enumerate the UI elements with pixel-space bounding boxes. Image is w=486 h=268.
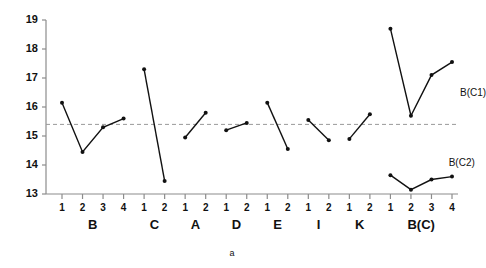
x-tick-label: 2: [155, 202, 175, 213]
y-tick-label: 16: [8, 100, 38, 112]
x-tick-label: 2: [237, 202, 257, 213]
x-group-label: B(C): [391, 217, 451, 232]
x-tick-label: 4: [442, 202, 462, 213]
y-tick-label: 19: [8, 13, 38, 25]
series-line-B(C2): [390, 175, 452, 190]
x-tick-label: 2: [319, 202, 339, 213]
data-point: [163, 179, 167, 183]
series-line-A: [185, 113, 206, 138]
data-point: [81, 150, 85, 154]
figure-caption: a: [0, 248, 464, 258]
data-point: [224, 128, 228, 132]
data-point: [265, 101, 269, 105]
x-tick-label: 1: [216, 202, 236, 213]
data-point: [142, 67, 146, 71]
series-line-K: [349, 114, 370, 139]
data-point: [101, 125, 105, 129]
data-point: [245, 121, 249, 125]
data-point: [429, 178, 433, 182]
data-point: [183, 135, 187, 139]
x-tick-label: 1: [380, 202, 400, 213]
x-tick-label: 2: [278, 202, 298, 213]
x-tick-label: 3: [93, 202, 113, 213]
series-line-E: [267, 103, 288, 149]
data-point: [122, 117, 126, 121]
data-point: [204, 111, 208, 115]
data-point: [388, 173, 392, 177]
data-point: [347, 137, 351, 141]
data-point: [286, 147, 290, 151]
y-tick-label: 17: [8, 71, 38, 83]
x-group-label: K: [330, 217, 390, 232]
x-tick-label: 1: [339, 202, 359, 213]
x-tick-label: 1: [257, 202, 277, 213]
x-tick-label: 1: [52, 202, 72, 213]
series-annotation: B(C1): [460, 87, 486, 98]
data-point: [429, 73, 433, 77]
x-tick-label: 4: [114, 202, 134, 213]
x-tick-label: 1: [134, 202, 154, 213]
series-line-I: [308, 120, 329, 140]
data-point: [306, 118, 310, 122]
y-tick-label: 18: [8, 42, 38, 54]
data-point: [368, 112, 372, 116]
data-point: [409, 114, 413, 118]
series-line-B(C1): [390, 29, 452, 116]
data-point: [409, 188, 413, 192]
data-point: [450, 175, 454, 179]
data-point: [60, 101, 64, 105]
x-tick-label: 2: [360, 202, 380, 213]
data-point: [388, 27, 392, 31]
y-tick-label: 13: [8, 187, 38, 199]
x-tick-label: 3: [421, 202, 441, 213]
x-tick-label: 2: [73, 202, 93, 213]
x-group-label: B: [63, 217, 123, 232]
x-tick-label: 2: [401, 202, 421, 213]
series-line-B: [62, 103, 124, 152]
series-annotation: B(C2): [449, 157, 475, 168]
x-tick-label: 1: [298, 202, 318, 213]
x-tick-label: 1: [175, 202, 195, 213]
series-line-C: [144, 69, 165, 181]
x-tick-label: 2: [196, 202, 216, 213]
y-tick-label: 14: [8, 158, 38, 170]
data-point: [450, 60, 454, 64]
y-tick-label: 15: [8, 129, 38, 141]
data-point: [327, 138, 331, 142]
